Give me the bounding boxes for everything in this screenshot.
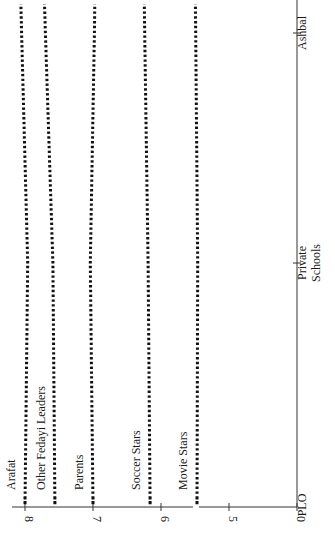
series-label: Movie Stars — [176, 431, 190, 490]
series-label: Parents — [72, 454, 86, 490]
series-labels: ArafatOther Fedayi LeadersParentsSoccer … — [4, 386, 190, 490]
series-label: Arafat — [4, 459, 18, 490]
category-label: PLO — [295, 493, 309, 516]
value-tick-label: 7 — [90, 516, 104, 522]
axes: 05678PLOPrivateSchoolsAshbal — [12, 0, 323, 522]
series-line-movie-stars — [195, 4, 197, 505]
series-line-arafat — [21, 4, 28, 505]
category-label: Private — [295, 246, 309, 280]
category-label: Ashbal — [295, 15, 309, 50]
value-tick-label: 5 — [226, 516, 240, 522]
value-tick-label: 8 — [22, 516, 36, 522]
series-line-soccer-stars — [144, 4, 150, 505]
rotated-line-chart: 05678PLOPrivateSchoolsAshbal ArafatOther… — [0, 0, 335, 536]
category-label: Schools — [309, 244, 323, 282]
value-tick-label: 6 — [158, 516, 172, 522]
series-label: Soccer Stars — [129, 430, 143, 490]
series-line-parents — [90, 4, 95, 505]
series-label: Other Fedayi Leaders — [34, 386, 48, 490]
